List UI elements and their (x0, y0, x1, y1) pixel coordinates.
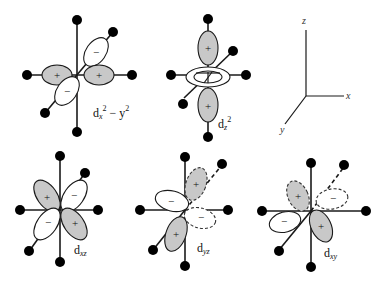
ligand-dot (108, 27, 118, 37)
orbital-label-dx2-y2: dx2 − y2 (93, 104, 129, 121)
sign-label: + (205, 100, 211, 112)
ligand-dot (135, 205, 145, 215)
sign-label: + (205, 42, 211, 54)
ligand-dot (72, 127, 82, 137)
ligand-dot (241, 70, 251, 80)
orbital-label-dyz: dyz (197, 241, 211, 256)
ligand-dot (203, 14, 213, 24)
sign-label: − (281, 215, 287, 227)
y-axis-label: y (279, 124, 285, 135)
sign-label: + (54, 69, 60, 81)
ligand-dot (339, 160, 349, 170)
ligand-dot (15, 205, 25, 215)
ligand-dot (72, 15, 82, 25)
sign-label: − (71, 189, 77, 201)
orbital-dxy: + − − + dxy (257, 158, 371, 272)
ligand-dot (274, 246, 284, 256)
ligand-dot (127, 70, 137, 80)
sign-label: − (93, 46, 99, 58)
ligand-dot (180, 261, 190, 271)
ligand-dot (166, 70, 176, 80)
axis-triad: z x y (279, 15, 351, 135)
ligand-dot (223, 205, 233, 215)
ligand-dot (180, 152, 190, 162)
ligand-dot (228, 46, 238, 56)
sign-label: − (168, 195, 174, 207)
sign-label: + (72, 217, 78, 229)
sign-label: + (193, 178, 199, 190)
orbital-dxz: + − − + dxz (15, 151, 103, 267)
ligand-dot (257, 206, 267, 216)
sign-label: − (45, 216, 51, 228)
sign-label: + (318, 220, 324, 232)
orbital-label-dxz: dxz (74, 243, 88, 258)
d-orbital-diagram: + + − − dx2 − y2 + + dz2 z x y (0, 0, 389, 284)
sign-label: − (64, 85, 70, 97)
z-axis-label: z (301, 15, 306, 26)
orbital-dyz: + − − + dyz (135, 152, 233, 271)
ligand-dot (22, 70, 32, 80)
ligand-dot (306, 262, 316, 272)
ligand-dot (55, 151, 65, 161)
ligand-dot (40, 108, 50, 118)
ligand-dot (148, 245, 158, 255)
sign-label: + (295, 190, 301, 202)
sign-label: − (330, 192, 336, 204)
orbital-label-dz2: dz2 (218, 115, 231, 132)
sign-label: + (173, 228, 179, 240)
orbital-dx2-y2: + + − − dx2 − y2 (22, 15, 137, 137)
ligand-dot (80, 168, 90, 178)
ligand-dot (203, 132, 213, 142)
ligand-dot (24, 246, 34, 256)
orbital-label-dxy: dxy (324, 246, 338, 261)
sign-label: − (198, 211, 204, 223)
sign-label: + (96, 69, 102, 81)
x-axis-label: x (345, 90, 351, 101)
ligand-dot (55, 257, 65, 267)
orbital-dz2: + + dz2 (166, 14, 251, 142)
ligand-dot (306, 158, 316, 168)
sign-label: + (44, 191, 50, 203)
ligand-dot (361, 206, 371, 216)
ligand-dot (93, 205, 103, 215)
ligand-dot (178, 99, 188, 109)
ligand-dot (217, 159, 227, 169)
